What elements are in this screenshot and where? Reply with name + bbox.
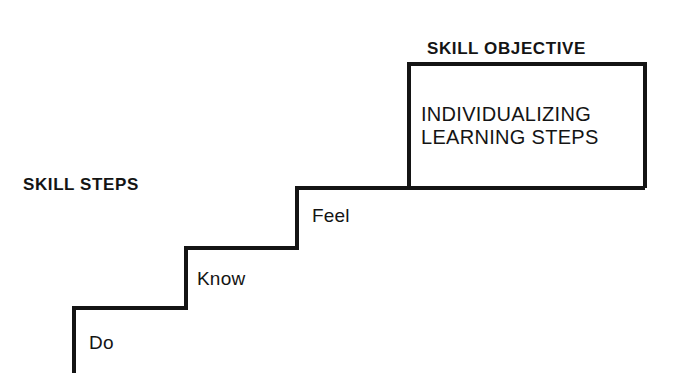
skill-steps-heading: SKILL STEPS xyxy=(23,176,139,193)
diagram-canvas: SKILL STEPS SKILL OBJECTIVE Do Know Feel… xyxy=(0,0,680,390)
step-label-know: Know xyxy=(197,269,245,288)
step-label-do: Do xyxy=(89,333,114,352)
objective-line-1: INDIVIDUALIZING xyxy=(421,103,599,126)
objective-line-2: LEARNING STEPS xyxy=(421,126,599,149)
step-label-feel: Feel xyxy=(312,206,350,225)
skill-objective-heading: SKILL OBJECTIVE xyxy=(427,40,586,57)
objective-box-text: INDIVIDUALIZING LEARNING STEPS xyxy=(421,103,599,149)
staircase-path xyxy=(74,188,645,373)
